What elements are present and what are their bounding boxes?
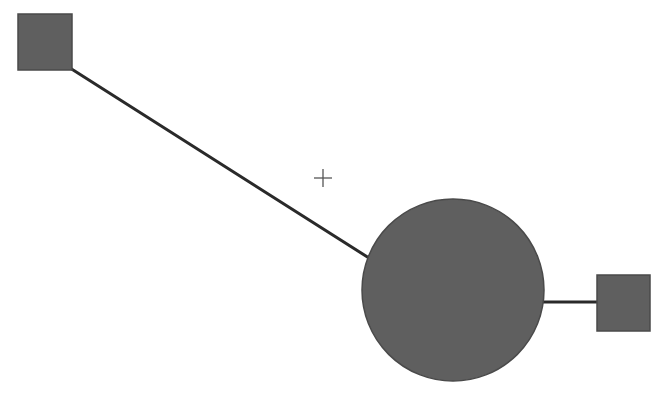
node-square-left[interactable] <box>18 14 72 70</box>
node-square-right[interactable] <box>597 275 650 331</box>
nodes-group <box>18 14 650 381</box>
crosshair-icon <box>314 169 332 187</box>
node-circle-center[interactable] <box>362 199 544 381</box>
diagram-canvas <box>0 0 660 403</box>
edge-square-left-to-circle-center[interactable] <box>70 68 369 258</box>
